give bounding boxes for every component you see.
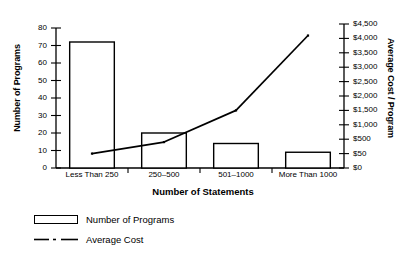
y-axis-left-tick-label: 20 — [25, 129, 47, 137]
y-axis-right-tick-label: $1,500 — [353, 106, 393, 114]
legend-label: Average Cost — [86, 234, 143, 245]
bar-3 — [286, 152, 331, 168]
chart-figure: Number of Programs Average Cost / Progra… — [0, 0, 406, 260]
y-axis-right-tick-label: $2,500 — [353, 78, 393, 86]
line-series — [91, 34, 309, 154]
y-axis-right-tick-label: $3,000 — [353, 63, 393, 71]
y-axis-right-tick-label: $4,500 — [353, 20, 393, 28]
y-axis-right-tick-label: $1,000 — [353, 121, 393, 129]
y-axis-left-tick-label: 40 — [25, 94, 47, 102]
y-axis-right-tick-label: $4,000 — [353, 34, 393, 42]
y-axis-left-tick-label: 70 — [25, 42, 47, 50]
line-point-1 — [163, 141, 165, 143]
line-point-3 — [307, 34, 309, 36]
y-axis-left-tick-label: 30 — [25, 112, 47, 120]
legend-item-number-of-programs: Number of Programs — [34, 214, 174, 225]
y-axis-right-tick-label: $0 — [353, 164, 393, 172]
y-axis-right-tick-label: $50 — [353, 150, 393, 158]
bar-series — [70, 42, 331, 168]
legend-line-swatch-icon — [34, 235, 78, 244]
y-axis-left-tick-label: 50 — [25, 77, 47, 85]
bar-1 — [142, 133, 187, 168]
legend-label: Number of Programs — [86, 214, 174, 225]
legend-item-average-cost: Average Cost — [34, 234, 143, 245]
y-axis-left-tick-label: 10 — [25, 147, 47, 155]
bar-0 — [70, 42, 115, 168]
line-segment-2 — [236, 36, 308, 111]
bar-2 — [214, 144, 259, 169]
x-axis-category-label: More Than 1000 — [258, 170, 358, 179]
y-axis-right-tick-label: $3,500 — [353, 49, 393, 57]
line-point-0 — [91, 153, 93, 155]
y-axis-left-tick-label: 80 — [25, 24, 47, 32]
y-axis-right-tick-label: $2,000 — [353, 92, 393, 100]
y-axis-right-tick-label: $500 — [353, 135, 393, 143]
line-segment-1 — [164, 110, 236, 142]
legend-bar-swatch-icon — [34, 215, 78, 224]
y-axis-left-tick-label: 60 — [25, 59, 47, 67]
line-point-2 — [235, 109, 237, 111]
